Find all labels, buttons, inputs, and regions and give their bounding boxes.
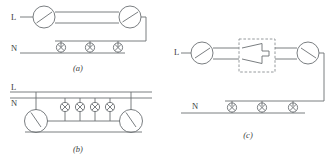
neutral-label-c: N (192, 101, 198, 111)
two-way-switch-left-b (25, 110, 48, 133)
lamp-item (56, 41, 65, 53)
lamp-item (105, 98, 114, 121)
lamp-item (257, 101, 266, 113)
neutral-label-b: N (11, 98, 17, 108)
intermediate-link-bars (262, 51, 269, 56)
lamp-item (75, 98, 84, 121)
lamp-item (85, 41, 94, 53)
intermediate-contact-upper (242, 44, 262, 52)
lamp-group-b (60, 98, 114, 121)
live-label-c: L (174, 47, 179, 57)
intermediate-switch-enclosure (239, 39, 275, 72)
caption-b: (b) (73, 144, 83, 154)
live-label-a: L (11, 12, 16, 22)
intermediate-contact-lower (242, 56, 262, 64)
diagram-b: L N (0, 80, 170, 161)
lamp-group-c (227, 101, 297, 113)
lamp-item (90, 98, 99, 121)
wiring-diagram-figure: L N (0, 0, 332, 161)
intermediate-switch-c (239, 39, 275, 72)
switched-live-return-a (55, 17, 146, 41)
lamp-item (113, 41, 122, 53)
diagram-c: L N (170, 25, 332, 153)
lamp-item (288, 101, 297, 113)
neutral-label-a: N (11, 43, 17, 53)
lamp-group-a (56, 41, 122, 53)
lamp-item (227, 101, 236, 113)
switched-live-return-c (225, 53, 324, 101)
two-way-switch-right-b (120, 110, 143, 133)
lamp-item (60, 98, 69, 121)
two-way-switch-left-a (33, 6, 55, 28)
diagram-a: L N (0, 0, 170, 78)
caption-a: (a) (73, 63, 83, 73)
live-label-b: L (11, 82, 16, 92)
caption-c: (c) (243, 130, 253, 140)
two-way-switch-right-a (119, 6, 141, 28)
two-way-switch-left-c (191, 42, 213, 64)
two-way-switch-right-c (297, 42, 319, 64)
